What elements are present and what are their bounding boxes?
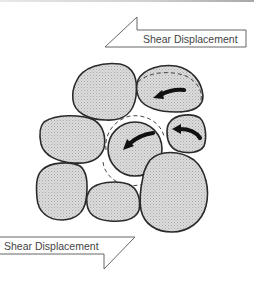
- pebble-bottom-left: [37, 163, 88, 220]
- shear-diagram: Shear Displacement Shear Displacemen: [0, 0, 254, 282]
- bottom-arrow-label: Shear Displacement: [4, 240, 99, 252]
- pebble-bottom-middle: [87, 182, 140, 221]
- bottom-shear-arrow: Shear Displacement: [0, 237, 135, 269]
- pebble-middle-right-small: [167, 115, 206, 153]
- top-shear-arrow: Shear Displacement: [105, 17, 246, 47]
- pebble-top-left: [73, 64, 137, 121]
- pebble-top-right: [137, 66, 203, 112]
- pebble-bottom-right: [140, 153, 208, 233]
- pebble-middle-left: [40, 116, 105, 163]
- top-arrow-label: Shear Displacement: [143, 33, 238, 45]
